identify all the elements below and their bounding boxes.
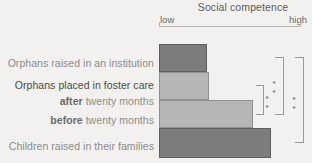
row-label-foster-after-rest: twenty months xyxy=(86,95,154,107)
bar-families xyxy=(159,128,271,158)
significance-mark-middle: ** xyxy=(271,79,276,96)
chart-title: Social competence xyxy=(178,1,308,13)
bar-institution xyxy=(159,44,207,72)
row-label-foster-care: Orphans placed in foster care xyxy=(15,79,154,91)
axis-tick-left xyxy=(159,22,160,27)
row-label-foster-after-emphasis: after xyxy=(60,95,83,107)
significance-mark-inner: ** xyxy=(264,94,269,111)
axis-line xyxy=(159,26,301,27)
row-label-institution: Orphans raised in an institution xyxy=(8,57,154,69)
bar-foster-after xyxy=(159,72,209,100)
axis-label-high: high xyxy=(289,14,307,25)
row-label-foster-before-emphasis: before xyxy=(50,114,82,126)
axis-label-low: low xyxy=(160,14,174,25)
row-label-foster-after: after twenty months xyxy=(60,95,154,107)
bar-foster-before xyxy=(159,100,253,128)
row-label-families: Children raised in their families xyxy=(9,140,154,152)
row-label-foster-before-rest: twenty months xyxy=(86,114,154,126)
row-label-foster-before: before twenty months xyxy=(50,114,154,126)
social-competence-chart: Social competence low high Orphans raise… xyxy=(0,0,312,163)
axis-tick-right xyxy=(300,22,301,27)
significance-mark-outer: ** xyxy=(291,95,296,112)
